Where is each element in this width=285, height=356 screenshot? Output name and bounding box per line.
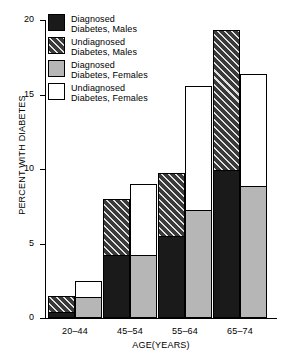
legend-item-0: DiagnosedDiabetes, Males <box>48 14 173 34</box>
segment-divider <box>76 297 101 298</box>
segment-divider <box>214 170 239 171</box>
y-tick-mark <box>40 169 46 170</box>
y-tick-mark <box>40 95 46 96</box>
legend-label-line2: Diabetes, Females <box>71 70 148 80</box>
y-tick-5: 5 <box>0 244 46 245</box>
legend-label-line2: Diabetes, Females <box>71 93 148 103</box>
legend-swatch-gray <box>48 60 65 77</box>
legend-swatch-white <box>48 83 65 100</box>
segment-divider <box>131 255 156 256</box>
bar-females-2 <box>185 86 212 318</box>
y-tick-mark <box>40 244 46 245</box>
bar-females-1-diagnosed-segment <box>131 255 156 317</box>
y-tick-0: 0 <box>0 318 46 319</box>
legend-item-3: UndiagnosedDiabetes, Females <box>48 83 173 103</box>
bar-males-1 <box>103 199 130 318</box>
legend-item-2: DiagnosedDiabetes, Females <box>48 60 173 80</box>
bar-males-3-undiagnosed-segment <box>214 31 239 170</box>
bar-females-2-undiagnosed-segment <box>186 87 211 211</box>
bar-males-2-undiagnosed-segment <box>159 174 184 235</box>
legend-label: UndiagnosedDiabetes, Males <box>71 37 137 57</box>
bar-males-1-undiagnosed-segment <box>104 200 129 255</box>
bar-females-3 <box>240 74 267 318</box>
legend-label-line2: Diabetes, Males <box>71 24 137 34</box>
legend-swatch-hatch <box>48 37 65 54</box>
bar-males-3-diagnosed-segment <box>214 170 239 317</box>
bar-males-0-undiagnosed-segment <box>49 297 74 312</box>
bar-males-1-diagnosed-segment <box>104 255 129 317</box>
legend-label: DiagnosedDiabetes, Females <box>71 60 148 80</box>
segment-divider <box>104 255 129 256</box>
bar-females-0-undiagnosed-segment <box>76 282 101 297</box>
legend-swatch-dark <box>48 14 65 31</box>
y-tick-20: 20 <box>0 20 46 21</box>
x-tick-label-3: 65–74 <box>203 326 277 336</box>
x-axis-title: AGE(YEARS) <box>45 340 277 350</box>
y-axis-title: PERCENT WITH DIABETES <box>17 85 27 225</box>
y-tick-mark <box>40 20 46 21</box>
bar-females-1 <box>130 184 157 318</box>
y-tick-label: 5 <box>14 239 34 248</box>
segment-divider <box>49 312 74 313</box>
legend-label-line1: Diagnosed <box>71 14 137 24</box>
legend-label: UndiagnosedDiabetes, Females <box>71 83 148 103</box>
y-tick-mark <box>40 318 46 319</box>
segment-divider <box>159 236 184 237</box>
bar-males-3 <box>213 30 240 318</box>
bar-males-2-diagnosed-segment <box>159 236 184 317</box>
bar-females-3-diagnosed-segment <box>241 186 266 317</box>
bar-males-2 <box>158 173 185 318</box>
diabetes-prevalence-bar-chart: 05101520 PERCENT WITH DIABETES AGE(YEARS… <box>0 0 285 356</box>
x-axis-line <box>45 318 277 319</box>
bar-females-1-undiagnosed-segment <box>131 185 156 255</box>
legend-item-1: UndiagnosedDiabetes, Males <box>48 37 173 57</box>
chart-legend: DiagnosedDiabetes, MalesUndiagnosedDiabe… <box>48 14 173 106</box>
bar-females-2-diagnosed-segment <box>186 210 211 317</box>
bar-males-0 <box>48 296 75 318</box>
y-tick-label: 20 <box>14 15 34 24</box>
legend-label-line1: Undiagnosed <box>71 83 148 93</box>
y-tick-label: 0 <box>14 313 34 322</box>
bar-females-0 <box>75 281 102 318</box>
bar-females-0-diagnosed-segment <box>76 297 101 317</box>
segment-divider <box>241 186 266 187</box>
legend-label-line1: Diagnosed <box>71 60 148 70</box>
legend-label-line1: Undiagnosed <box>71 37 137 47</box>
legend-label: DiagnosedDiabetes, Males <box>71 14 137 34</box>
bar-females-3-undiagnosed-segment <box>241 75 266 187</box>
segment-divider <box>186 210 211 211</box>
legend-label-line2: Diabetes, Males <box>71 47 137 57</box>
